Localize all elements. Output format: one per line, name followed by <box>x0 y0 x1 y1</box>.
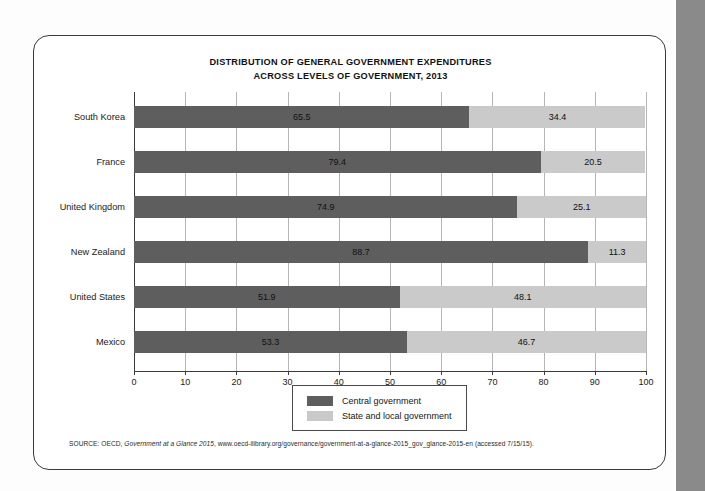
bar-row: 88.711.3 <box>134 241 646 263</box>
source-note: SOURCE: OECD, Government at a Glance 201… <box>69 440 644 447</box>
legend-label: State and local government <box>342 411 452 421</box>
x-tick-mark-70 <box>492 371 493 375</box>
x-tick-mark-90 <box>595 371 596 375</box>
category-label: New Zealand <box>71 241 125 263</box>
category-label: France <box>96 151 125 173</box>
category-label: South Korea <box>74 106 125 128</box>
x-tick-label-20: 20 <box>231 377 241 387</box>
bar-value-central: 51.9 <box>134 286 400 308</box>
gridline-50 <box>390 92 391 371</box>
legend-item: Central government <box>293 393 466 408</box>
bar-value-state-local: 46.7 <box>407 331 646 353</box>
bar-value-central: 74.9 <box>134 196 517 218</box>
bar-value-state-local: 48.1 <box>400 286 646 308</box>
bar-row: 79.420.5 <box>134 151 646 173</box>
category-label: Mexico <box>96 331 125 353</box>
bar-value-state-local: 25.1 <box>517 196 646 218</box>
gridline-0 <box>134 92 135 371</box>
x-tick-label-70: 70 <box>487 377 497 387</box>
page-edge-strip <box>674 0 705 491</box>
source-prefix: SOURCE: OECD, <box>69 440 124 447</box>
gridline-10 <box>185 92 186 371</box>
bar-value-state-local: 20.5 <box>541 151 646 173</box>
figure-frame: DISTRIBUTION OF GENERAL GOVERNMENT EXPEN… <box>33 35 666 470</box>
bar-row: 74.925.1 <box>134 196 646 218</box>
bar-value-state-local: 11.3 <box>588 241 646 263</box>
source-suffix: , www.oecd-ilibrary.org/governance/gover… <box>214 440 534 447</box>
source-title-italic: Government at a Glance 2015 <box>124 440 214 447</box>
bar-value-central: 65.5 <box>134 106 469 128</box>
chart-title-line-1: DISTRIBUTION OF GENERAL GOVERNMENT EXPEN… <box>34 56 667 70</box>
x-tick-mark-50 <box>390 371 391 375</box>
bar-row: 51.948.1 <box>134 286 646 308</box>
category-label: United States <box>70 286 125 308</box>
bar-row: 65.534.4 <box>134 106 646 128</box>
bar-row: 53.346.7 <box>134 331 646 353</box>
x-tick-mark-60 <box>441 371 442 375</box>
gridline-30 <box>288 92 289 371</box>
plot-area: 65.534.479.420.574.925.188.711.351.948.1… <box>134 92 646 371</box>
x-tick-label-100: 100 <box>638 377 653 387</box>
category-label: United Kingdom <box>60 196 125 218</box>
gridline-20 <box>236 92 237 371</box>
gridline-90 <box>595 92 596 371</box>
legend-swatch <box>307 396 333 406</box>
x-tick-mark-80 <box>544 371 545 375</box>
x-tick-mark-100 <box>646 371 647 375</box>
bar-value-central: 79.4 <box>134 151 541 173</box>
gridline-70 <box>492 92 493 371</box>
x-tick-mark-0 <box>134 371 135 375</box>
gridline-40 <box>339 92 340 371</box>
x-tick-mark-30 <box>288 371 289 375</box>
x-tick-label-80: 80 <box>539 377 549 387</box>
x-tick-label-0: 0 <box>131 377 136 387</box>
chart-title: DISTRIBUTION OF GENERAL GOVERNMENT EXPEN… <box>34 56 667 83</box>
chart-title-line-2: ACROSS LEVELS OF GOVERNMENT, 2013 <box>34 70 667 84</box>
legend-item: State and local government <box>293 408 466 423</box>
chart-legend: Central governmentState and local govern… <box>292 385 467 431</box>
x-tick-label-90: 90 <box>590 377 600 387</box>
bar-value-central: 88.7 <box>134 241 588 263</box>
legend-label: Central government <box>342 396 421 406</box>
legend-swatch <box>307 411 333 421</box>
x-tick-mark-10 <box>185 371 186 375</box>
gridline-80 <box>544 92 545 371</box>
gridline-60 <box>441 92 442 371</box>
x-tick-label-10: 10 <box>180 377 190 387</box>
x-tick-mark-40 <box>339 371 340 375</box>
bar-value-state-local: 34.4 <box>469 106 645 128</box>
bar-value-central: 53.3 <box>134 331 407 353</box>
gridline-100 <box>646 92 647 371</box>
x-tick-mark-20 <box>236 371 237 375</box>
